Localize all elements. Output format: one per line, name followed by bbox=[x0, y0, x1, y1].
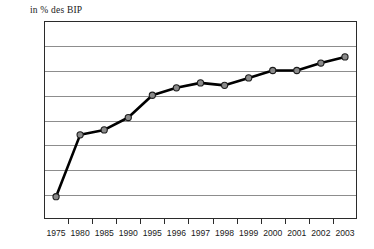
x-axis-tick-label: 1999 bbox=[239, 228, 258, 238]
x-axis-tick-label: 1997 bbox=[191, 228, 210, 238]
x-axis-tick-label: 1980 bbox=[71, 228, 90, 238]
x-axis-tick-mark bbox=[261, 219, 262, 224]
x-axis-tick-label: 1985 bbox=[95, 228, 114, 238]
x-axis-tick-mark bbox=[237, 219, 238, 224]
x-axis-tick-label: 2001 bbox=[287, 228, 306, 238]
x-axis-tick-label: 2000 bbox=[263, 228, 282, 238]
x-axis-tick-mark bbox=[164, 219, 165, 224]
x-axis-tick-mark bbox=[213, 219, 214, 224]
x-axis-tick-mark bbox=[333, 219, 334, 224]
x-axis-tick-label: 2002 bbox=[311, 228, 330, 238]
line-chart: in % des BIP 468101214161820 19751980198… bbox=[0, 0, 374, 249]
gridline bbox=[45, 195, 356, 196]
gridline bbox=[45, 96, 356, 97]
x-axis-tick-label: 1998 bbox=[215, 228, 234, 238]
x-axis-tick-label: 1996 bbox=[167, 228, 186, 238]
x-axis-tick-label: 2003 bbox=[335, 228, 354, 238]
x-axis-tick-mark bbox=[92, 219, 93, 224]
chart-axis-title: in % des BIP bbox=[30, 5, 82, 15]
x-axis-tick-label: 1995 bbox=[143, 228, 162, 238]
x-axis-tick-label: 1975 bbox=[46, 228, 65, 238]
plot-area bbox=[44, 21, 357, 219]
x-axis-tick-label: 1990 bbox=[119, 228, 138, 238]
gridline bbox=[45, 46, 356, 47]
gridline bbox=[45, 170, 356, 171]
x-axis-tick-mark bbox=[116, 219, 117, 224]
x-axis-tick-mark bbox=[309, 219, 310, 224]
x-axis-tick-mark bbox=[140, 219, 141, 224]
gridline bbox=[45, 145, 356, 146]
x-axis-tick-mark bbox=[188, 219, 189, 224]
gridline bbox=[45, 71, 356, 72]
x-axis-tick-mark bbox=[285, 219, 286, 224]
x-axis-tick-mark bbox=[68, 219, 69, 224]
gridline bbox=[45, 121, 356, 122]
